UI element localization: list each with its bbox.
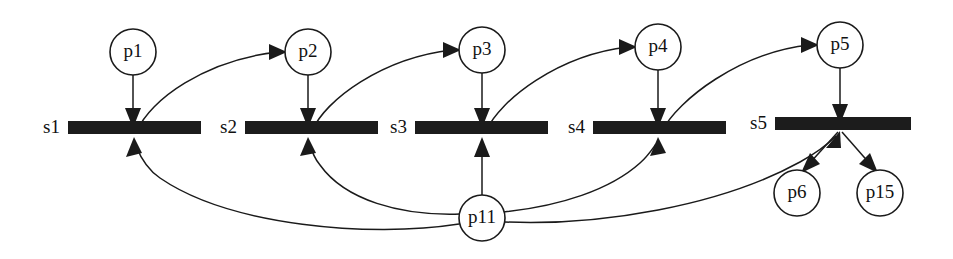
transition-s5[interactable]: s5	[750, 112, 911, 133]
arc-s2-p3	[312, 42, 461, 131]
arc-s1-p2	[137, 44, 287, 131]
place-p11[interactable]: p11	[459, 195, 505, 241]
place-p15[interactable]: p15	[857, 170, 903, 216]
arc-s5-p15	[842, 132, 878, 173]
arc-p11-s4	[504, 137, 666, 212]
arc-p4-s4	[650, 70, 666, 128]
place-p6-label: p6	[788, 181, 807, 202]
arc-p11-s1	[126, 137, 459, 229]
place-p11-label: p11	[468, 206, 496, 227]
place-p3[interactable]: p3	[459, 27, 505, 73]
arc-p3-s3	[474, 73, 490, 128]
transition-s2-label: s2	[220, 116, 237, 137]
arc-s4-p5	[662, 37, 819, 131]
arc-p2-s2	[300, 75, 316, 128]
transition-s3-label: s3	[390, 116, 407, 137]
transition-s1-label: s1	[43, 116, 60, 137]
arc-p5-s5	[832, 68, 848, 124]
arc-p11-s2	[300, 137, 460, 214]
transition-s3[interactable]: s3	[390, 116, 548, 137]
petri-net-diagram: s1 s2 s3 s4 s5 p1	[0, 0, 953, 259]
transition-s5-label: s5	[750, 112, 767, 133]
transition-s4[interactable]: s4	[568, 116, 726, 137]
place-p5[interactable]: p5	[817, 22, 863, 68]
place-p3-label: p3	[473, 38, 492, 59]
place-p6[interactable]: p6	[774, 170, 820, 216]
arc-s5-p6	[801, 132, 838, 173]
place-p2[interactable]: p2	[285, 29, 331, 75]
petri-net-canvas: s1 s2 s3 s4 s5 p1	[0, 0, 953, 259]
place-p4-label: p4	[649, 35, 669, 56]
transition-s2[interactable]: s2	[220, 116, 378, 137]
place-p2-label: p2	[299, 40, 318, 61]
arc-p11-s3	[474, 137, 490, 195]
arc-s3-p4	[486, 39, 637, 131]
arc-p1-s1	[125, 75, 141, 128]
transition-s4-label: s4	[568, 116, 585, 137]
place-p1-label: p1	[124, 40, 143, 61]
place-p4[interactable]: p4	[635, 24, 681, 70]
transition-layer: s1 s2 s3 s4 s5	[43, 112, 911, 137]
place-p1[interactable]: p1	[110, 29, 156, 75]
place-p15-label: p15	[866, 181, 895, 202]
place-p5-label: p5	[831, 33, 850, 54]
transition-s1[interactable]: s1	[43, 116, 201, 137]
